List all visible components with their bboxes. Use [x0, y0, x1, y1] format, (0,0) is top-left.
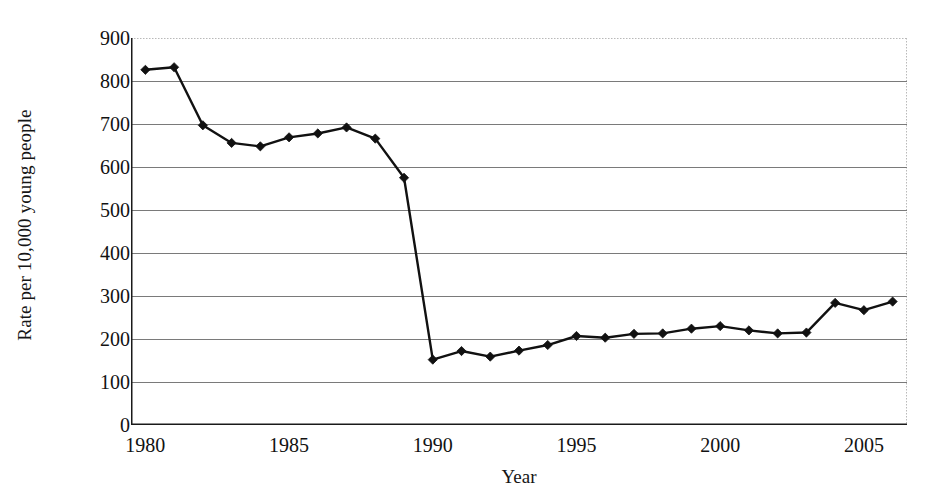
y-tick-label: 900 [70, 28, 130, 48]
x-tick-label: 2005 [824, 434, 904, 456]
y-tick-label: 200 [70, 329, 130, 349]
x-tick-label: 1995 [536, 434, 616, 456]
x-axis-tick-labels: 198019851990199520002005 [0, 434, 950, 464]
x-tick-label: 1990 [393, 434, 473, 456]
y-tick-label: 100 [70, 372, 130, 392]
y-axis-tick-labels: 9008007006005004003002001000 [60, 0, 130, 503]
x-axis-title: Year [131, 466, 907, 488]
y-tick-label: 800 [70, 71, 130, 91]
y-tick-label: 400 [70, 243, 130, 263]
y-tick-label: 700 [70, 114, 130, 134]
plot-background [131, 38, 907, 425]
y-tick-label: 0 [70, 415, 130, 435]
chart-figure: Rate per 10,000 young people 90080070060… [0, 0, 950, 503]
x-tick-label: 1980 [105, 434, 185, 456]
line-chart-svg [131, 38, 907, 425]
y-tick-label: 500 [70, 200, 130, 220]
y-axis-title: Rate per 10,000 young people [14, 25, 54, 425]
y-tick-label: 600 [70, 157, 130, 177]
x-tick-label: 1985 [249, 434, 329, 456]
plot-area [131, 38, 907, 425]
x-tick-label: 2000 [680, 434, 760, 456]
y-tick-label: 300 [70, 286, 130, 306]
